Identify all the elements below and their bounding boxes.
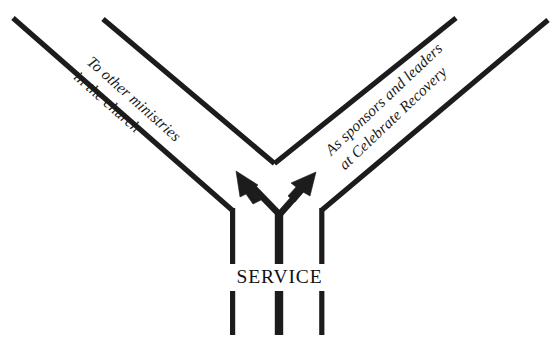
- diagram-canvas: [0, 0, 559, 355]
- service-arrow-right-head: [288, 172, 316, 202]
- fork-road-diagram: To other ministries in the church As spo…: [0, 0, 559, 355]
- service-label-text: SERVICE: [228, 264, 332, 291]
- service-label: SERVICE: [0, 264, 559, 291]
